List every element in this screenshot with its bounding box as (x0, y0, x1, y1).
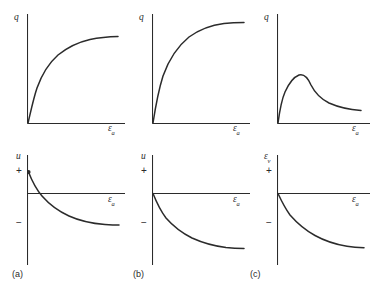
panel-c-top (277, 14, 372, 129)
caption-a: (a) (12, 270, 23, 279)
panel-a-top-plot (27, 14, 127, 129)
panel-c-plus-sign: + (266, 166, 272, 176)
panel-b-bottom-ylabel: u (141, 152, 146, 162)
panel-c-bottom-plot (277, 155, 372, 267)
curve-pore-pressure (29, 172, 120, 225)
panel-a-minus-sign: − (16, 218, 22, 228)
panel-a-bottom (27, 155, 127, 267)
panel-a-bottom-xlabel: εa (108, 195, 115, 206)
panel-b-top-xlabel: εa (233, 124, 240, 135)
panel-b-bottom-plot (152, 155, 252, 267)
panel-b-top (152, 14, 252, 129)
panel-a-plus-sign: + (16, 166, 22, 176)
curve-pore-pressure (153, 194, 244, 249)
panel-a-bottom-plot (27, 155, 127, 267)
panel-a-top (27, 14, 127, 129)
figure-canvas: q εa q εa q εa u + − εa (0, 0, 375, 294)
panel-c-top-ylabel: q (264, 13, 269, 23)
panel-c-bottom-xlabel: εa (352, 195, 359, 206)
panel-a-bottom-ylabel: u (16, 152, 21, 162)
panel-a-top-ylabel: q (14, 13, 19, 23)
panel-c-top-plot (277, 14, 372, 129)
panel-b-bottom-xlabel: εa (233, 195, 240, 206)
panel-a-top-xlabel: εa (108, 124, 115, 135)
caption-c: (c) (250, 270, 261, 279)
curve-deviator-stress (28, 37, 118, 123)
panel-c-top-xlabel: εa (352, 124, 359, 135)
panel-b-top-plot (152, 14, 252, 129)
curve-deviator-stress (278, 75, 361, 123)
curve-deviator-stress (153, 23, 244, 124)
panel-b-minus-sign: − (141, 218, 147, 228)
panel-c-bottom-ylabel: εv (264, 152, 271, 163)
panel-c-bottom (277, 155, 372, 267)
caption-b: (b) (133, 270, 144, 279)
panel-b-bottom (152, 155, 252, 267)
panel-b-top-ylabel: q (139, 13, 144, 23)
panel-c-minus-sign: − (266, 218, 272, 228)
panel-b-plus-sign: + (141, 166, 147, 176)
